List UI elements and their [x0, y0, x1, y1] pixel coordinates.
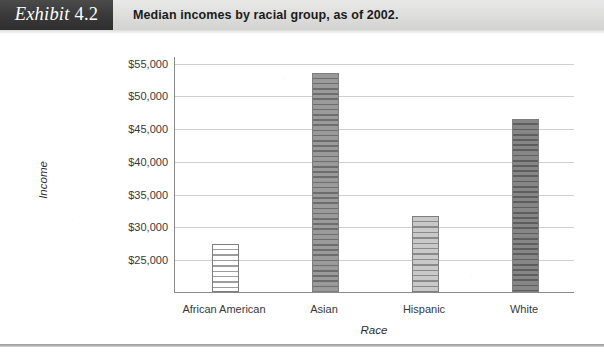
y-axis-tick-label: $50,000	[96, 90, 168, 102]
exhibit-title-bar: Median incomes by racial group, as of 20…	[113, 0, 604, 30]
bar	[312, 73, 339, 292]
bar	[412, 216, 439, 292]
y-axis-tick-label: $45,000	[96, 123, 168, 135]
gridline	[175, 64, 574, 65]
exhibit-header: Exhibit4.2 Median incomes by racial grou…	[0, 0, 604, 30]
exhibit-label: Exhibit	[15, 4, 70, 25]
y-axis-tick-label: $55,000	[96, 58, 168, 70]
chart-figure: Income $55,000$50,000$45,000$40,000$35,0…	[0, 34, 604, 345]
gridline	[175, 96, 574, 97]
x-axis-title: Race	[174, 324, 574, 336]
y-axis-tick-label: $35,000	[96, 189, 168, 201]
bar	[512, 119, 539, 292]
exhibit-number: 4.2	[75, 4, 99, 25]
exhibit-title: Median incomes by racial group, as of 20…	[133, 8, 399, 22]
plot-area	[174, 57, 574, 293]
page-bottom-rule	[0, 344, 604, 347]
y-axis-tick-label: $30,000	[96, 221, 168, 233]
exhibit-tag: Exhibit4.2	[0, 0, 113, 30]
y-axis-tick-label: $40,000	[96, 156, 168, 168]
y-axis-tick-label: $25,000	[96, 254, 168, 266]
bar	[212, 244, 239, 292]
x-axis-tick-label: White	[454, 303, 594, 315]
y-axis-title: Income	[37, 120, 49, 240]
